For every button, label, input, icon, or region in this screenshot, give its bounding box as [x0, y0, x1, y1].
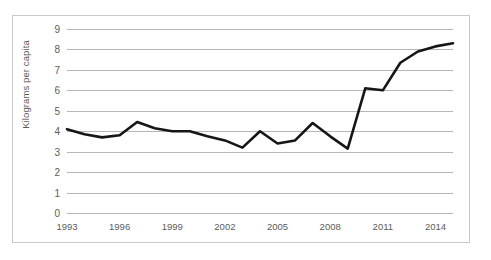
x-axis-tick-label: 2014 — [425, 221, 446, 232]
y-axis-tick-label: 7 — [54, 64, 60, 75]
line-series-path — [67, 43, 453, 148]
y-axis-tick-label: 3 — [54, 146, 60, 157]
x-axis-tick-label: 1993 — [56, 221, 77, 232]
y-axis-tick-label: 8 — [54, 44, 60, 55]
x-axis-tick-label: 2002 — [214, 221, 235, 232]
y-axis-tick-label: 5 — [54, 105, 60, 116]
x-axis-tick-label: 2008 — [320, 221, 341, 232]
chart-figure: Kilograms per capita 0123456789 19931996… — [12, 15, 470, 243]
x-axis-tick-label: 2005 — [267, 221, 288, 232]
line-series-svg — [67, 29, 453, 213]
y-axis-tick-label: 9 — [54, 24, 60, 35]
gridline — [67, 213, 453, 214]
x-axis-tick-label: 1999 — [162, 221, 183, 232]
y-axis-tick-label: 0 — [54, 208, 60, 219]
y-axis-tick-label: 6 — [54, 85, 60, 96]
y-axis-tick-label: 1 — [54, 187, 60, 198]
y-axis-tick-label: 4 — [54, 126, 60, 137]
x-axis-tick-label: 1996 — [109, 221, 130, 232]
y-axis-title: Kilograms per capita — [20, 25, 31, 145]
y-axis-tick-label: 2 — [54, 167, 60, 178]
plot-area: 0123456789 19931996199920022005200820112… — [67, 29, 453, 213]
x-axis-tick-label: 2011 — [373, 221, 393, 232]
